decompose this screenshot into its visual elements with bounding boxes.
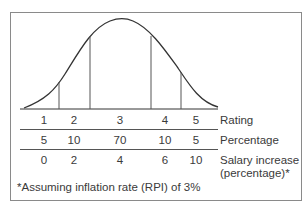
salary-label-line1: Salary increase: [220, 154, 299, 167]
footnote: *Assuming inflation rate (RPI) of 3%: [17, 181, 200, 194]
salary-1: 0: [41, 154, 47, 167]
salary-2: 2: [71, 154, 77, 167]
row-divider: [20, 129, 218, 130]
salary-4: 6: [162, 154, 168, 167]
row-divider: [20, 149, 218, 150]
percentage-5: 5: [193, 134, 199, 147]
salary-label-line2: (percentage)*: [220, 167, 290, 180]
rating-2: 2: [71, 114, 77, 127]
salary-5: 10: [190, 154, 203, 167]
percentage-4: 10: [159, 134, 172, 147]
salary-3: 4: [117, 154, 123, 167]
rating-5: 5: [193, 114, 199, 127]
rating-1: 1: [41, 114, 47, 127]
rating-3: 3: [117, 114, 123, 127]
percentage-3: 70: [114, 134, 127, 147]
rating-4: 4: [162, 114, 168, 127]
percentage-2: 10: [68, 134, 81, 147]
percentage-label: Percentage: [220, 134, 279, 147]
bell-curve: [24, 19, 218, 108]
rating-label: Rating: [220, 114, 253, 127]
percentage-1: 5: [41, 134, 47, 147]
